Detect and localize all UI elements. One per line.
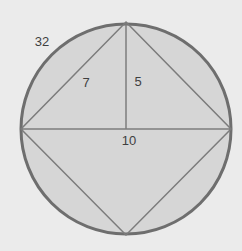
diagonal-label: 10 bbox=[122, 133, 136, 148]
side-length-label: 7 bbox=[82, 75, 89, 90]
height-label: 5 bbox=[134, 74, 141, 89]
circumference-label: 32 bbox=[35, 34, 49, 49]
geometry-diagram: 32 7 5 10 bbox=[0, 0, 242, 251]
